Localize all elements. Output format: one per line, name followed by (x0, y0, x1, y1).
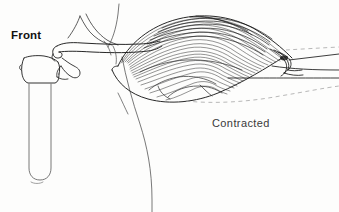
anatomy-line-drawing (0, 0, 339, 212)
label-front: Front (11, 29, 41, 41)
illustration-canvas: Front Contracted (0, 0, 339, 212)
label-contracted: Contracted (212, 117, 270, 129)
